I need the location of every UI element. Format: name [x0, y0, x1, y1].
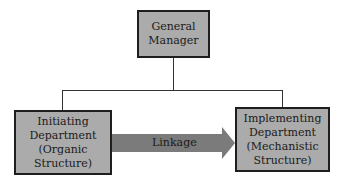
initiating-label-line2: Department: [29, 129, 96, 143]
implementing-label-line2: Department: [244, 126, 322, 140]
implementing-label-line4: Structure): [244, 154, 322, 168]
implementing-department-box: Implementing Department (Mechanistic Str…: [235, 107, 330, 172]
general-manager-box: General Manager: [137, 10, 210, 58]
initiating-label-line3: (Organic: [29, 143, 96, 157]
gm-label-line1: General: [148, 20, 198, 34]
implementing-label-line1: Implementing: [244, 112, 322, 126]
initiating-department-box: Initiating Department (Organic Structure…: [14, 110, 112, 175]
initiating-label-line4: Structure): [29, 157, 96, 171]
linkage-label: Linkage: [152, 136, 197, 149]
initiating-label-line1: Initiating: [29, 115, 96, 129]
implementing-label-line3: (Mechanistic: [244, 140, 322, 154]
gm-label-line2: Manager: [148, 34, 198, 48]
